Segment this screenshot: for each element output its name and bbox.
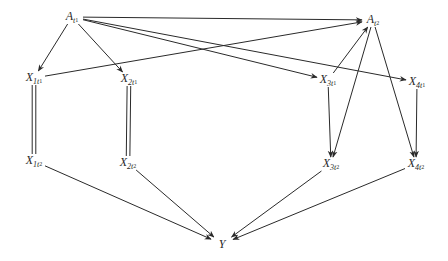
edge-x_2t2-y	[136, 170, 214, 237]
causal-diagram: At1At2X1t1X2t1X3t1X4t1X1t2X2t2X3t2X4t2Y	[0, 0, 448, 261]
edge-a_t1-x_2t1	[78, 24, 122, 72]
node-subsubscript: 2	[336, 164, 339, 170]
edge-x_4t2-y	[233, 169, 405, 240]
node-subsubscript: 1	[333, 80, 336, 86]
node-a-t1: At1	[66, 10, 79, 25]
node-label: Y	[219, 237, 226, 251]
node-subsubscript: 2	[421, 164, 424, 170]
edge-x_1t1-a_t2	[45, 22, 362, 76]
edge-a_t1-x_3t1	[83, 20, 317, 78]
node-x-2t1: X2t1	[121, 72, 138, 87]
node-x-3t1: X3t1	[320, 73, 337, 88]
node-x-1t2: X1t2	[26, 154, 43, 169]
edge-x_3t1-x_3t2	[328, 87, 331, 157]
edge-x_1t2-y	[45, 166, 211, 239]
edge-a_t2-x_4t2	[375, 27, 414, 157]
node-x-2t2: X2t2	[120, 156, 137, 171]
edge-x_3t2-y	[232, 171, 322, 237]
edge-a_t1-x_1t1	[38, 24, 67, 71]
node-subsubscript: 1	[422, 82, 425, 88]
edge-x_2t1-x_2t2	[126, 86, 127, 156]
node-a-t2: At2	[367, 13, 380, 28]
edge-x_4t1-x_4t2	[416, 89, 417, 157]
node-subsubscript: 1	[75, 17, 78, 23]
node-subsubscript: 1	[134, 79, 137, 85]
node-x-3t2: X3t2	[323, 157, 340, 172]
node-x-4t1: X4t1	[409, 75, 426, 90]
edges-layer	[0, 0, 448, 261]
node-x-4t2: X4t2	[408, 157, 425, 172]
edge-a_t1-a_t2	[83, 17, 362, 20]
node-subsubscript: 2	[376, 20, 379, 26]
edge-x_2t1-x_2t2	[130, 86, 131, 156]
edge-x_3t1-a_t2	[333, 27, 368, 73]
node-y: Y	[219, 238, 226, 250]
node-x-1t1: X1t1	[26, 71, 43, 86]
node-subsubscript: 2	[39, 161, 42, 167]
node-subsubscript: 2	[133, 163, 136, 169]
edge-a_t2-x_3t2	[333, 27, 371, 157]
node-subsubscript: 1	[39, 78, 42, 84]
